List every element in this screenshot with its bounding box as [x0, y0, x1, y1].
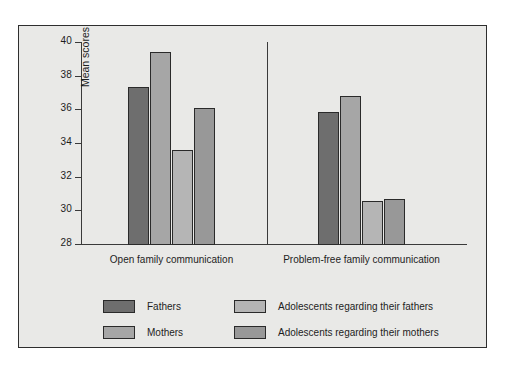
legend-swatch [103, 300, 135, 313]
bar [362, 201, 383, 245]
legend-label: Mothers [147, 327, 183, 338]
legend-swatch [103, 326, 135, 339]
y-tick-mark [75, 76, 81, 77]
chart-legend: FathersMothersAdolescents regarding thei… [103, 299, 443, 344]
y-tick-label: 34 [60, 136, 72, 147]
bar [384, 199, 405, 245]
bar [128, 87, 149, 245]
y-tick-label: 38 [60, 69, 72, 80]
legend-item: Adolescents regarding their mothers [234, 325, 439, 339]
y-tick-label: 30 [60, 203, 72, 214]
y-tick-mark [75, 210, 81, 211]
y-tick-mark [75, 177, 81, 178]
y-tick-label: 28 [60, 237, 72, 248]
bar [194, 108, 215, 245]
chart-figure-frame: Mean scores 28303234363840 Open family c… [18, 25, 487, 348]
bar [150, 52, 171, 245]
y-tick-mark [75, 143, 81, 144]
legend-label: Adolescents regarding their fathers [278, 301, 433, 312]
bar [172, 150, 193, 245]
legend-label: Adolescents regarding their mothers [278, 327, 439, 338]
legend-swatch [234, 326, 266, 339]
y-tick-label: 40 [60, 35, 72, 46]
category-label: Open family communication [110, 254, 233, 265]
group-separator-line [267, 42, 268, 244]
y-tick-mark [75, 109, 81, 110]
legend-item: Mothers [103, 325, 183, 339]
legend-label: Fathers [147, 301, 181, 312]
plot-area: Mean scores 28303234363840 Open family c… [81, 42, 467, 260]
y-tick-label: 32 [60, 170, 72, 181]
bar [318, 112, 339, 245]
y-axis-title: Mean scores [79, 12, 91, 102]
legend-item: Adolescents regarding their fathers [234, 299, 433, 313]
legend-swatch [234, 300, 266, 313]
y-tick-label: 36 [60, 102, 72, 113]
y-tick-mark [75, 244, 81, 245]
y-tick-mark [75, 42, 81, 43]
category-label: Problem-free family communication [283, 254, 440, 265]
bar [340, 96, 361, 245]
legend-item: Fathers [103, 299, 181, 313]
